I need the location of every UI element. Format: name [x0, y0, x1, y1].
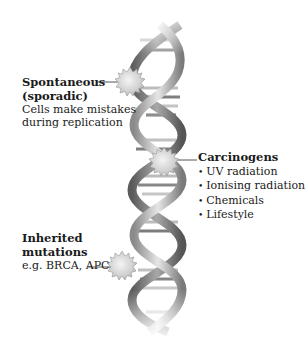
label-spontaneous: Spontaneous (sporadic) Cells make mistak…	[22, 76, 136, 129]
carcinogen-list: UV radiation Ionising radiation Chemical…	[198, 165, 305, 223]
label-title: (sporadic)	[22, 90, 136, 104]
label-title: mutations	[22, 246, 110, 260]
list-item: Lifestyle	[198, 208, 305, 223]
label-title: Carcinogens	[198, 151, 305, 165]
label-description: Cells make mistakes	[22, 103, 136, 116]
label-description: e.g. BRCA, APC	[22, 259, 110, 272]
label-title: Inherited	[22, 232, 110, 246]
label-title: Spontaneous	[22, 76, 136, 90]
label-inherited: Inherited mutations e.g. BRCA, APC	[22, 232, 110, 272]
label-carcinogens: Carcinogens UV radiation Ionising radiat…	[198, 151, 305, 223]
dna-mutation-diagram: Spontaneous (sporadic) Cells make mistak…	[0, 0, 308, 338]
label-description: during replication	[22, 116, 136, 129]
list-item: UV radiation	[198, 165, 305, 180]
list-item: Ionising radiation	[198, 179, 305, 194]
list-item: Chemicals	[198, 194, 305, 209]
